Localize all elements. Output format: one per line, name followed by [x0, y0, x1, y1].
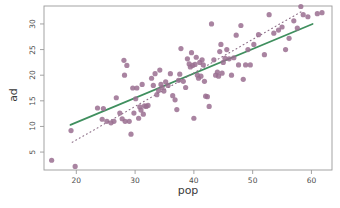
- data-point: [111, 119, 116, 124]
- data-point: [165, 83, 170, 88]
- data-point: [319, 10, 324, 15]
- y-tick-label: 25: [29, 45, 37, 55]
- data-point: [172, 97, 177, 102]
- x-tick-label: 60: [307, 177, 317, 185]
- data-point: [124, 63, 129, 68]
- data-point: [185, 56, 190, 61]
- data-point: [271, 31, 276, 36]
- data-point: [207, 104, 212, 109]
- data-point: [183, 85, 188, 90]
- plot-canvas: [0, 0, 340, 208]
- data-point: [194, 55, 199, 60]
- data-point: [198, 74, 203, 79]
- data-point: [161, 88, 166, 93]
- data-point: [176, 78, 181, 83]
- data-point: [73, 164, 78, 169]
- data-point: [256, 32, 261, 37]
- data-point: [248, 62, 253, 67]
- data-point: [305, 14, 310, 19]
- data-point: [95, 105, 100, 110]
- x-tick-label: 50: [248, 177, 258, 185]
- data-point: [178, 46, 183, 51]
- data-point: [243, 62, 248, 67]
- data-point: [241, 77, 246, 82]
- data-point: [231, 55, 236, 60]
- x-axis-ticks: [76, 170, 311, 174]
- data-point: [136, 116, 141, 121]
- y-tick-label: 20: [29, 70, 37, 80]
- data-point: [127, 119, 132, 124]
- y-tick-label: 15: [29, 96, 37, 106]
- x-tick-label: 20: [72, 177, 82, 185]
- data-point: [262, 52, 267, 57]
- x-axis-title: pop: [178, 185, 199, 196]
- data-point: [211, 57, 216, 62]
- data-point: [134, 85, 139, 90]
- scatter-plot-figure: 2030405060 51015202530 pop ad: [0, 0, 340, 208]
- data-point: [201, 62, 206, 67]
- data-point: [209, 21, 214, 26]
- y-tick-label: 30: [29, 19, 37, 29]
- x-tick-label: 30: [130, 177, 140, 185]
- data-point: [141, 112, 146, 117]
- data-point: [122, 73, 127, 78]
- data-point: [236, 62, 241, 67]
- data-point: [100, 117, 105, 122]
- data-point: [192, 62, 197, 67]
- data-point: [291, 18, 296, 23]
- data-point: [145, 103, 150, 108]
- data-point: [133, 96, 138, 101]
- data-point: [68, 128, 73, 133]
- data-point: [298, 4, 303, 9]
- data-point: [267, 12, 272, 17]
- data-point: [251, 42, 256, 47]
- data-point: [279, 24, 284, 29]
- data-point: [219, 71, 224, 76]
- data-point: [234, 33, 239, 38]
- data-point: [181, 79, 186, 84]
- data-point: [238, 23, 243, 28]
- data-point: [286, 36, 291, 41]
- data-point: [151, 83, 156, 88]
- data-point: [205, 94, 210, 99]
- data-point: [140, 82, 145, 87]
- data-point: [295, 25, 300, 30]
- data-point: [202, 79, 207, 84]
- data-point: [174, 107, 179, 112]
- data-point: [177, 72, 182, 77]
- data-point: [224, 47, 229, 52]
- data-point: [200, 57, 205, 62]
- data-point: [128, 132, 133, 137]
- data-point: [218, 42, 223, 47]
- data-point: [152, 71, 157, 76]
- data-point: [121, 58, 126, 63]
- data-point: [283, 47, 288, 52]
- data-point: [49, 158, 54, 163]
- data-point: [315, 11, 320, 16]
- data-point: [217, 49, 222, 54]
- data-point: [229, 73, 234, 78]
- data-point: [157, 67, 162, 72]
- data-point: [114, 95, 119, 100]
- data-point: [117, 111, 122, 116]
- data-point: [191, 116, 196, 121]
- y-axis-title: ad: [8, 88, 19, 102]
- y-tick-label: 10: [29, 122, 37, 132]
- data-point: [168, 71, 173, 76]
- data-point: [149, 76, 154, 81]
- data-point: [245, 47, 250, 52]
- data-point: [131, 111, 136, 116]
- y-tick-label: 5: [29, 150, 37, 155]
- y-axis-ticks: [40, 24, 44, 152]
- data-point: [189, 50, 194, 55]
- data-point: [301, 12, 306, 17]
- data-point: [101, 106, 106, 111]
- data-point: [227, 56, 232, 61]
